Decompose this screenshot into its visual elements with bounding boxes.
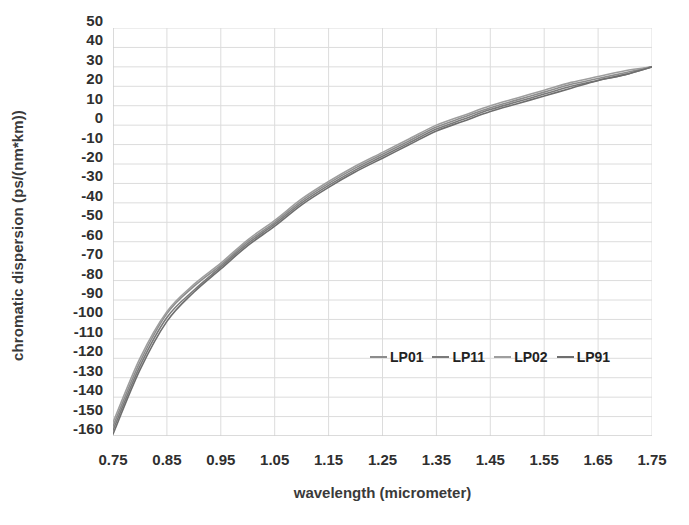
y-tick-label: -90: [81, 285, 103, 300]
legend-label-lp02: LP02: [514, 350, 547, 364]
legend-label-lp11: LP11: [452, 350, 485, 364]
x-tick-label: 1.15: [314, 452, 343, 467]
y-tick-label: -120: [73, 343, 103, 358]
x-tick-label: 1.55: [530, 452, 559, 467]
y-tick-label: 50: [86, 13, 103, 28]
plot-area: [113, 28, 652, 436]
y-tick-label: 40: [86, 32, 103, 47]
y-tick-label: -10: [81, 129, 103, 144]
chart-container: chromatic dispersion (ps/(nm*km)) 504030…: [0, 0, 689, 525]
y-tick-label: -110: [74, 323, 103, 338]
y-tick-label: -20: [81, 149, 103, 164]
y-tick-label: -130: [73, 362, 103, 377]
y-axis-title-text: chromatic dispersion (ps/(nm*km)): [9, 110, 26, 361]
y-axis-title: chromatic dispersion (ps/(nm*km)): [0, 0, 34, 470]
y-tick-label: -30: [81, 168, 103, 183]
legend-label-lp91: LP91: [577, 350, 610, 364]
x-tick-label: 1.35: [422, 452, 451, 467]
plot-svg: [113, 28, 652, 436]
x-tick-label: 1.05: [260, 452, 289, 467]
legend-swatch-lp02: [494, 356, 511, 358]
y-tick-label: -60: [81, 226, 103, 241]
y-tick-label: -50: [81, 207, 103, 222]
chart-legend: LP01LP11LP02LP91: [370, 347, 610, 367]
y-tick-label: -70: [81, 246, 103, 261]
y-axis-tick-labels: 50403020100-10-20-30-40-50-60-70-80-90-1…: [34, 20, 108, 444]
y-tick-label: 30: [86, 51, 103, 66]
legend-swatch-lp91: [557, 356, 574, 358]
legend-entry-lp91[interactable]: LP91: [557, 350, 610, 364]
y-tick-label: -160: [73, 421, 103, 436]
x-tick-label: 0.95: [206, 452, 235, 467]
y-tick-label: 20: [86, 71, 103, 86]
legend-entry-lp02[interactable]: LP02: [494, 350, 547, 364]
y-tick-label: -150: [73, 401, 103, 416]
y-tick-label: -100: [73, 304, 103, 319]
y-tick-label: -80: [81, 265, 103, 280]
legend-label-lp01: LP01: [390, 350, 423, 364]
x-tick-label: 1.25: [368, 452, 397, 467]
y-tick-label: 0: [95, 110, 103, 125]
y-tick-label: -140: [73, 382, 103, 397]
y-tick-label: 10: [86, 90, 103, 105]
x-tick-label: 1.65: [583, 452, 612, 467]
x-tick-label: 1.45: [476, 452, 505, 467]
x-axis-tick-labels: 0.750.850.951.051.151.251.351.451.551.65…: [0, 452, 689, 476]
legend-swatch-lp11: [432, 356, 449, 358]
x-tick-label: 0.85: [152, 452, 181, 467]
legend-swatch-lp01: [370, 356, 387, 358]
legend-entry-lp01[interactable]: LP01: [370, 350, 423, 364]
y-tick-label: -40: [81, 187, 103, 202]
legend-entry-lp11[interactable]: LP11: [432, 350, 485, 364]
x-tick-label: 1.75: [637, 452, 666, 467]
x-axis-title: wavelength (micrometer): [113, 484, 652, 501]
x-tick-label: 0.75: [98, 452, 127, 467]
